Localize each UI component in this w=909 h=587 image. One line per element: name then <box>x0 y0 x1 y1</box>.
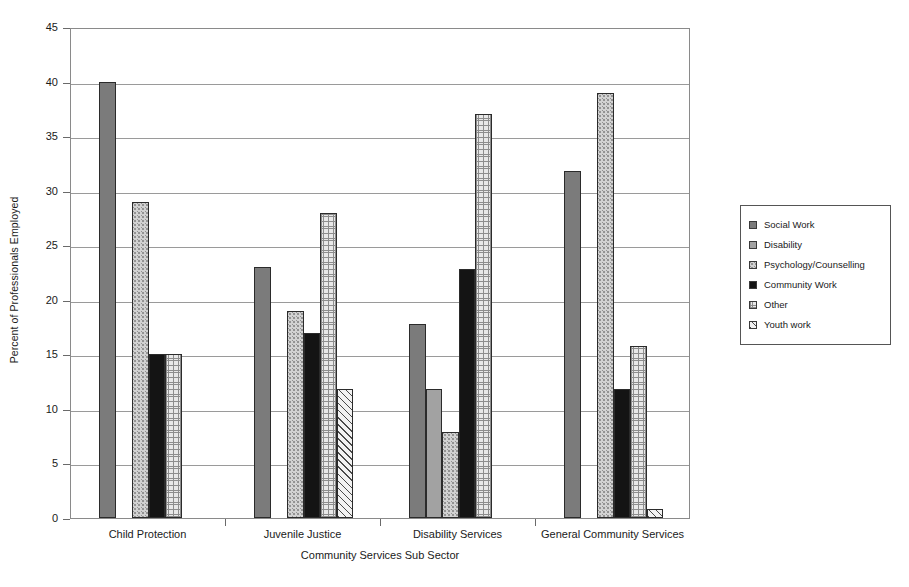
legend-item: Social Work <box>749 215 882 235</box>
x-axis-tick <box>535 519 536 526</box>
y-axis-tick <box>63 28 70 29</box>
legend-label: Youth work <box>764 320 811 330</box>
plot-area <box>70 28 690 519</box>
y-axis-tick <box>63 464 70 465</box>
x-axis-title: Community Services Sub Sector <box>70 549 690 561</box>
y-axis-tick-label: 0 <box>6 513 58 524</box>
y-axis-tick-label: 10 <box>6 404 58 415</box>
bar <box>320 213 337 519</box>
y-axis-title: Percent of Professionals Employed <box>8 130 20 430</box>
y-axis-tick-label: 45 <box>6 22 58 33</box>
bar <box>597 93 614 519</box>
legend-label: Other <box>764 300 788 310</box>
legend-item: Community Work <box>749 275 882 295</box>
legend-swatch-icon <box>749 301 757 309</box>
bar <box>337 389 354 518</box>
bar <box>99 82 116 518</box>
bar <box>304 333 321 519</box>
bar <box>426 389 443 518</box>
bar <box>254 267 271 518</box>
bar <box>442 432 459 518</box>
legend-item: Youth work <box>749 315 882 335</box>
bar <box>475 114 492 518</box>
y-axis-tick-label: 5 <box>6 458 58 469</box>
y-axis-tick-label: 20 <box>6 295 58 306</box>
bar <box>614 389 631 518</box>
x-axis-category-label: Disability Services <box>380 528 535 540</box>
y-axis-tick <box>63 410 70 411</box>
bar <box>409 324 426 518</box>
legend-swatch-icon <box>749 281 757 289</box>
y-axis-tick <box>63 83 70 84</box>
y-axis-tick-label: 30 <box>6 186 58 197</box>
x-axis-category-label: Juvenile Justice <box>225 528 380 540</box>
x-axis-category-label: General Community Services <box>535 528 690 540</box>
y-axis-tick <box>63 355 70 356</box>
legend-swatch-icon <box>749 241 757 249</box>
legend-label: Community Work <box>764 280 837 290</box>
y-axis-tick <box>63 519 70 520</box>
bar <box>647 509 664 518</box>
bar <box>630 346 647 518</box>
bar <box>459 269 476 518</box>
legend-label: Psychology/Counselling <box>764 260 865 270</box>
x-axis-tick <box>380 519 381 526</box>
y-axis-tick-label: 40 <box>6 77 58 88</box>
legend-item: Disability <box>749 235 882 255</box>
x-axis-category-label: Child Protection <box>70 528 225 540</box>
legend-item: Other <box>749 295 882 315</box>
bar <box>287 311 304 518</box>
legend-swatch-icon <box>749 321 757 329</box>
legend-item: Psychology/Counselling <box>749 255 882 275</box>
y-axis-tick-label: 15 <box>6 349 58 360</box>
y-axis-tick <box>63 246 70 247</box>
bar <box>132 202 149 518</box>
chart-legend: Social WorkDisabilityPsychology/Counsell… <box>740 205 891 345</box>
legend-swatch-icon <box>749 221 757 229</box>
y-axis-tick-label: 25 <box>6 240 58 251</box>
y-axis-tick <box>63 192 70 193</box>
gridline <box>71 84 689 85</box>
bar <box>149 354 166 518</box>
legend-swatch-icon <box>749 261 757 269</box>
bar <box>564 171 581 518</box>
legend-label: Disability <box>764 240 802 250</box>
y-axis-tick-label: 35 <box>6 131 58 142</box>
bar <box>165 354 182 518</box>
bar-chart: Percent of Professionals Employed 051015… <box>0 0 909 587</box>
x-axis-tick <box>225 519 226 526</box>
y-axis-tick <box>63 137 70 138</box>
legend-label: Social Work <box>764 220 815 230</box>
y-axis-tick <box>63 301 70 302</box>
